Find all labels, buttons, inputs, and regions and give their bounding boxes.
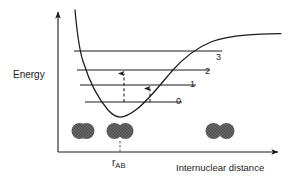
x-axis-label: Internuclear distance	[176, 163, 264, 173]
equilibrium-distance-label: rAB	[112, 158, 126, 170]
transitions-group	[124, 74, 150, 103]
molecule-compressed	[72, 123, 95, 139]
y-axis-label: Energy	[13, 70, 45, 80]
equilibrium-distance-subscript: AB	[115, 161, 125, 170]
vibrational-level-label-0: 0	[176, 97, 181, 106]
atom-b	[219, 123, 235, 139]
atom-b	[79, 123, 95, 139]
vibrational-level-label-2: 2	[205, 67, 210, 76]
morse-potential-diagram: Energy Internuclear distance rAB 3 2 1 0	[0, 0, 290, 184]
atom-b	[118, 123, 134, 139]
vibrational-levels-group	[74, 51, 222, 102]
vibrational-level-label-1: 1	[190, 80, 195, 89]
vibrational-level-label-3: 3	[216, 53, 221, 62]
molecule-stretched	[206, 123, 235, 139]
diagram-canvas	[0, 0, 290, 184]
molecule-equilibrium	[107, 123, 134, 139]
